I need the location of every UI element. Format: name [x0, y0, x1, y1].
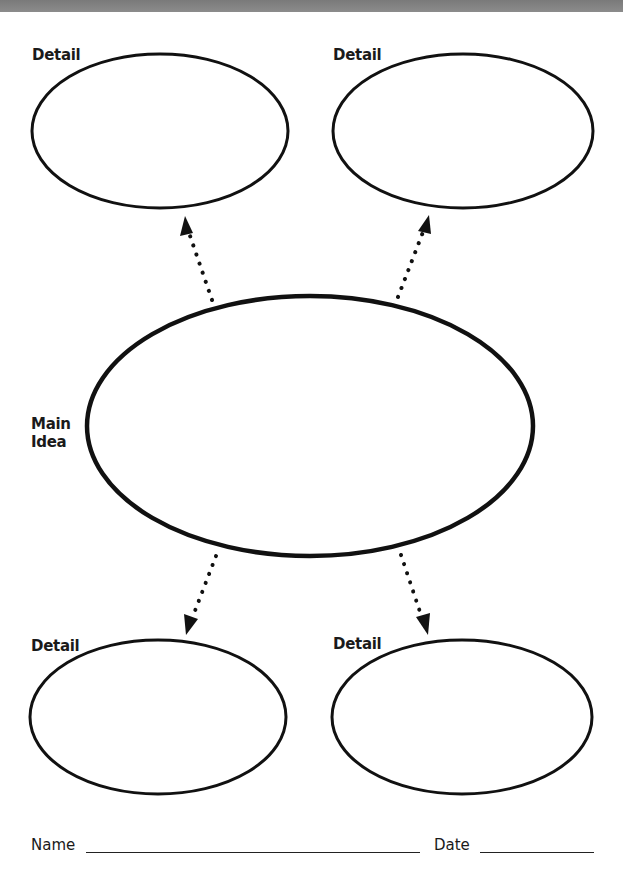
main-idea-label: Main Idea [31, 415, 71, 451]
arrow-to-bottom-right [401, 555, 430, 635]
detail-box-bottom-right[interactable] [332, 640, 592, 794]
arrow-to-bottom-left [184, 556, 216, 635]
main-idea-label-line2: Idea [31, 433, 71, 451]
detail-box-top-left[interactable] [32, 54, 288, 208]
detail-label-bottom-left: Detail [31, 637, 79, 655]
name-label: Name [31, 836, 75, 854]
detail-label-top-right: Detail [333, 46, 381, 64]
main-idea-label-line1: Main [31, 415, 71, 433]
main-idea-box[interactable] [87, 296, 533, 556]
date-label: Date [434, 836, 470, 854]
detail-label-top-left: Detail [32, 46, 80, 64]
name-field[interactable] [86, 834, 420, 853]
detail-box-bottom-left[interactable] [30, 640, 286, 794]
diagram-canvas [0, 0, 623, 883]
detail-box-top-right[interactable] [333, 54, 593, 208]
detail-label-bottom-right: Detail [333, 635, 381, 653]
date-field[interactable] [480, 834, 594, 853]
arrow-to-top-left [180, 216, 212, 300]
arrow-to-top-right [398, 215, 431, 297]
